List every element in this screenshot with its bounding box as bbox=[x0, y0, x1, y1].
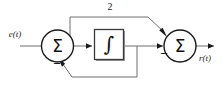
feedforward-gain-label: 2 bbox=[108, 1, 113, 12]
summing-junction-2[interactable]: Σ bbox=[164, 30, 196, 62]
output-signal-label: r(t) bbox=[199, 53, 211, 63]
summer2-sigma-symbol: Σ bbox=[175, 36, 186, 56]
summer1-bottom-minus-sign: − bbox=[53, 56, 61, 71]
block-diagram-svg: Σ − ∫ Σ − e(t) 2 r(t) bbox=[0, 0, 223, 93]
integrator-block[interactable]: ∫ bbox=[95, 30, 126, 62]
summer1-sigma-symbol: Σ bbox=[52, 36, 63, 56]
input-signal-label: e(t) bbox=[9, 29, 22, 39]
integrator-symbol: ∫ bbox=[104, 32, 114, 56]
output-wire bbox=[196, 43, 214, 49]
summer2-left-minus-sign: − bbox=[160, 46, 168, 61]
block-diagram-canvas: Σ − ∫ Σ − e(t) 2 r(t) bbox=[0, 0, 223, 93]
feedforward-diagonal-wire bbox=[148, 17, 167, 37]
integrator-output-wire bbox=[125, 43, 163, 49]
